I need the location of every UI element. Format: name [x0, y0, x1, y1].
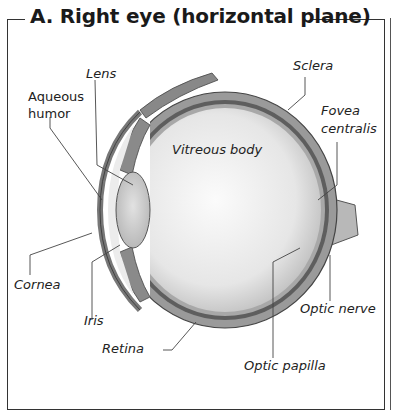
leader-sclera — [288, 77, 305, 110]
label-sclera: Sclera — [293, 58, 333, 73]
label-aqueous-humor: Aqueous humor — [28, 88, 84, 122]
lens-shape — [116, 172, 150, 248]
label-iris: Iris — [84, 313, 104, 328]
vitreous-body-shape — [129, 108, 321, 312]
eye-cross-section-illustration — [0, 0, 394, 418]
label-fovea-centralis: Fovea centralis — [321, 102, 377, 138]
label-optic-papilla: Optic papilla — [244, 358, 326, 373]
label-retina: Retina — [102, 341, 144, 356]
label-lens: Lens — [86, 66, 116, 81]
label-optic-nerve: Optic nerve — [300, 301, 376, 316]
leader-cornea — [30, 233, 92, 275]
leader-aqueous-humor — [50, 117, 102, 200]
label-vitreous-body: Vitreous body — [172, 142, 262, 157]
label-cornea: Cornea — [14, 277, 61, 292]
leader-retina — [163, 322, 196, 350]
